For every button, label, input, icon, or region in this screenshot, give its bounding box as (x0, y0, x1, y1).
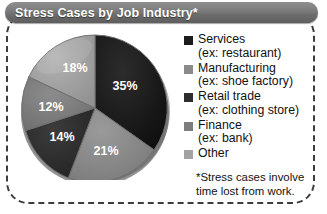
legend-item-finance: Finance (ex: bank) (184, 119, 316, 147)
pie-chart-svg: 35% 21% 14% 12% 18% (14, 28, 178, 180)
slice-label-other: 18% (62, 61, 87, 75)
chart-title-bar: Stress Cases by Job Industry* (5, 2, 318, 23)
page-title: Stress Cases by Job Industry* (5, 6, 198, 20)
legend-swatch-finance (184, 122, 193, 131)
legend-example-manufacturing: (ex: shoe factory) (198, 75, 316, 89)
legend-label-services: Services (198, 33, 245, 47)
slice-label-finance: 12% (38, 100, 63, 114)
legend-label-finance: Finance (198, 119, 242, 133)
legend-item-other: Other (184, 147, 316, 161)
chart-footnote: *Stress cases involve time lost from wor… (196, 171, 320, 199)
slice-label-services: 35% (112, 79, 137, 93)
legend-label-manufacturing: Manufacturing (198, 62, 276, 76)
chart-legend: Services (ex: restaurant) Manufacturing … (184, 33, 316, 162)
legend-label-retail-trade: Retail trade (198, 90, 261, 104)
footnote-line-2: time lost from work. (196, 185, 320, 199)
legend-swatch-services (184, 36, 193, 45)
legend-example-retail-trade: (ex: clothing store) (198, 104, 316, 118)
slice-label-retail-trade: 14% (49, 130, 74, 144)
legend-swatch-manufacturing (184, 65, 193, 74)
legend-example-services: (ex: restaurant) (198, 47, 316, 61)
legend-swatch-retail-trade (184, 93, 193, 102)
footnote-line-1: *Stress cases involve (196, 171, 320, 185)
legend-item-manufacturing: Manufacturing (ex: shoe factory) (184, 62, 316, 90)
slice-label-manufacturing: 21% (93, 144, 118, 158)
legend-example-finance: (ex: bank) (198, 132, 316, 146)
pie-chart: 35% 21% 14% 12% 18% (14, 28, 178, 180)
chart-figure: Stress Cases by Job Industry* (0, 0, 327, 214)
legend-item-services: Services (ex: restaurant) (184, 33, 316, 61)
legend-label-other: Other (198, 147, 229, 161)
legend-swatch-other (184, 150, 193, 159)
legend-item-retail-trade: Retail trade (ex: clothing store) (184, 90, 316, 118)
